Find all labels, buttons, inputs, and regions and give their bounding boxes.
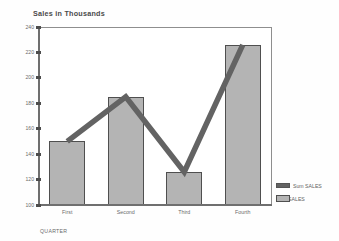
legend-item: Sum SALES (276, 179, 338, 192)
y-axis-tick (36, 102, 41, 105)
y-axis-tick-label: 180 (14, 100, 34, 106)
y-axis-tick (36, 76, 41, 79)
x-axis-tick-label: Second (97, 209, 156, 215)
y-axis-tick (36, 178, 41, 181)
y-axis-tick-label-wrap: 240 (12, 24, 34, 31)
x-axis-title: QUARTER (40, 228, 67, 234)
legend-bar-swatch (276, 195, 290, 202)
legend-item-label: Sum SALES (293, 183, 322, 189)
x-axis-line (38, 204, 272, 206)
y-axis-tick-label: 220 (14, 49, 34, 55)
y-axis-tick-label-wrap: 220 (12, 49, 34, 56)
legend-item: Sum SALES (276, 192, 338, 205)
chart-legend: Sum SALES Sum SALES (276, 179, 338, 205)
chart-title: Sales in Thousands (33, 9, 105, 18)
y-axis-tick-label: 120 (14, 176, 34, 182)
legend-line-swatch (276, 183, 290, 188)
y-axis-tick (36, 51, 41, 54)
y-axis-tick-label: 100 (14, 202, 34, 208)
y-axis-tick (36, 127, 41, 130)
y-axis-tick-label-wrap: 200 (12, 74, 34, 81)
y-axis-tick-label: 160 (14, 125, 34, 131)
y-axis-tick-label: 240 (14, 24, 34, 30)
x-axis-tick-label: Fourth (214, 209, 273, 215)
y-axis-tick (36, 204, 41, 207)
y-axis-tick-label-wrap: 120 (12, 176, 34, 183)
y-axis-tick-label-wrap: 160 (12, 125, 34, 132)
line-series-overlay (38, 27, 272, 205)
y-axis-tick-label: 140 (14, 151, 34, 157)
y-axis-tick-label-wrap: 180 (12, 100, 34, 107)
x-axis-tick-label: Third (155, 209, 214, 215)
y-axis-tick (36, 26, 41, 29)
y-axis-tick-label-wrap: 140 (12, 151, 34, 158)
chart-container: Sales in Thousands 100120140160180200220… (0, 0, 339, 241)
line-series-path (67, 45, 243, 172)
y-axis-tick (36, 153, 41, 156)
y-axis-tick-label-wrap: 100 (12, 202, 34, 209)
x-axis-tick-label: First (38, 209, 97, 215)
y-axis-tick-label: 200 (14, 74, 34, 80)
